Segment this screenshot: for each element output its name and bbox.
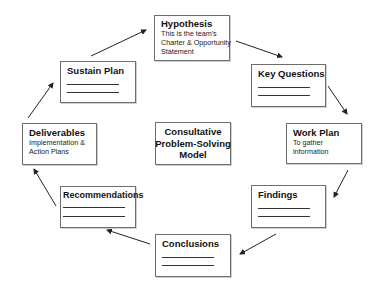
node-desc-line: Statement (161, 47, 224, 56)
node-title: Hypothesis (161, 18, 224, 29)
blank-line (63, 207, 125, 208)
node-title: Key Questions (258, 68, 320, 79)
node-deliverables: Deliverables Implementation & Action Pla… (22, 123, 97, 165)
blank-line (162, 257, 214, 258)
center-line: Consultative (164, 126, 221, 138)
blank-line (258, 216, 310, 217)
blank-line (67, 84, 119, 85)
node-title: Findings (258, 189, 320, 200)
node-key-questions: Key Questions (251, 64, 326, 107)
arrow-sustain-plan-to-hypothesis (91, 30, 146, 56)
node-desc-line: Action Plans (29, 147, 91, 156)
blank-line (258, 87, 310, 88)
blank-line (162, 265, 214, 266)
node-title: Sustain Plan (67, 65, 130, 76)
node-sustain-plan: Sustain Plan (60, 61, 136, 103)
blank-line (258, 208, 310, 209)
arrow-conclusions-to-recommendations (107, 230, 150, 244)
arrow-deliverables-to-sustain-plan (28, 83, 53, 118)
node-title: Work Plan (293, 127, 356, 138)
node-hypothesis: Hypothesis This is the team's Charter & … (154, 15, 230, 61)
node-title: Recommendations (63, 190, 134, 201)
node-desc-line: This is the team's (161, 29, 224, 38)
node-findings: Findings (251, 185, 326, 228)
arrow-findings-to-conclusions (240, 234, 276, 254)
arrow-work-plan-to-findings (334, 170, 348, 197)
node-desc-line: To gather (293, 138, 356, 147)
node-work-plan: Work Plan To gather information (286, 123, 362, 164)
center-model-label: Consultative Problem-Solving Model (155, 122, 231, 165)
node-conclusions: Conclusions (155, 234, 231, 277)
node-desc-line: information (293, 147, 356, 156)
node-title: Deliverables (29, 127, 91, 138)
blank-line (258, 95, 310, 96)
node-desc-line: Implementation & (29, 138, 91, 147)
blank-line (67, 92, 119, 93)
center-line: Problem-Solving (155, 138, 230, 150)
center-line: Model (179, 149, 206, 161)
arrow-hypothesis-to-key-questions (236, 41, 282, 57)
node-recommendations: Recommendations (60, 186, 136, 228)
arrow-recommendations-to-deliverables (34, 169, 56, 206)
arrow-key-questions-to-work-plan (328, 86, 347, 114)
node-title: Conclusions (162, 238, 225, 249)
blank-line (63, 216, 125, 217)
node-desc-line: Charter & Opportunity (161, 38, 224, 47)
